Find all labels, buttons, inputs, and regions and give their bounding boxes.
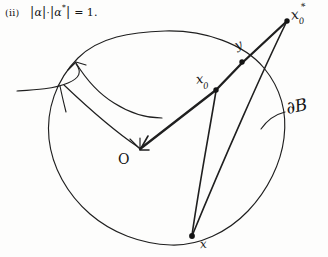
alpha-star-symbol: α: [54, 6, 62, 19]
abs-bar-close-2: |: [66, 4, 70, 19]
equation-value: 1.: [87, 6, 98, 19]
arrow-from-boundary-to-O: [64, 85, 138, 147]
sketch-page: .ink { fill: none; stroke: #1f1f1f; stro…: [0, 0, 328, 257]
leader-sweep-tail: [60, 86, 66, 112]
point-dot-y: [239, 59, 244, 64]
arrowhead-at-O-from-left: [130, 138, 140, 149]
item-tag: (ii): [5, 7, 19, 18]
leader-sweep-curve: [76, 63, 162, 118]
label-x0-star: x0*: [290, 5, 310, 25]
ray-O-to-x0star: [140, 22, 286, 149]
point-dot-x0-star: [284, 18, 289, 23]
label-x0: x0: [195, 71, 210, 89]
label-boundary-dB: ∂B: [284, 96, 308, 117]
segment-x0star-to-x: [192, 23, 286, 236]
equals-sign: =: [74, 6, 83, 19]
point-dot-x0: [213, 87, 218, 92]
label-x0-sub: 0: [202, 80, 209, 91]
alpha-symbol: α: [34, 6, 42, 19]
point-dot-x: [189, 233, 195, 239]
circle-boundary-dB: [48, 31, 284, 245]
geometry-sketch-canvas: .ink { fill: none; stroke: #1f1f1f; stro…: [0, 0, 328, 257]
label-x: x: [199, 238, 207, 251]
equation-line: (ii) |α|·|α*|=1.: [5, 5, 98, 18]
label-x0-star-sup: *: [300, 1, 306, 12]
star-superscript: *: [62, 3, 66, 12]
label-x0-star-sub: 0: [298, 16, 305, 27]
segment-x0-to-x: [192, 91, 216, 235]
label-center-O: O: [118, 152, 129, 166]
leader-line-dB: [261, 112, 285, 129]
